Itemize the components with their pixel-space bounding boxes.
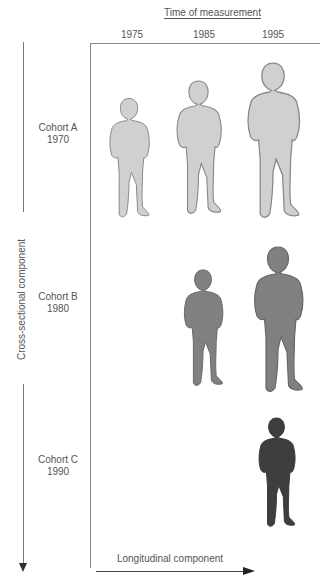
time-of-measurement-title: Time of measurement	[0, 7, 335, 18]
cross-sectional-label: Cross-sectional component	[16, 215, 27, 385]
person-icon-cohort-a-1975	[104, 96, 154, 219]
frame-left-line	[90, 43, 91, 568]
year-1985-label: 1985	[184, 29, 224, 40]
person-icon-cohort-a-1985	[171, 73, 226, 221]
cohort-a-label: Cohort A1970	[28, 122, 88, 146]
person-icon-cohort-c-1995	[254, 410, 299, 534]
arrow-down-icon	[19, 563, 27, 572]
year-1975-label: 1975	[112, 29, 152, 40]
arrow-right-icon	[243, 567, 255, 575]
cross-sectional-axis-upper	[23, 42, 24, 212]
person-icon-cohort-b-1985	[179, 265, 227, 390]
longitudinal-axis	[96, 571, 244, 572]
person-icon-cohort-b-1995	[247, 244, 309, 394]
cohort-c-label: Cohort C1990	[28, 454, 88, 478]
longitudinal-label: Longitudinal component	[100, 553, 240, 564]
year-1995-label: 1995	[253, 29, 293, 40]
frame-top-line	[90, 43, 320, 44]
cohort-b-label: Cohort B1980	[28, 291, 88, 315]
cross-sectional-axis-lower	[23, 384, 24, 564]
person-icon-cohort-a-1995	[241, 56, 305, 224]
